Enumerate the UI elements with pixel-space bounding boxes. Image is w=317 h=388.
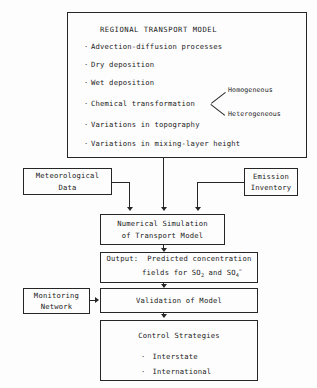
diagram-canvas: REGIONAL TRANSPORT MODEL ·Advection-diff… bbox=[0, 0, 317, 388]
model-bullet-5-label: Variations in mixing-layer height bbox=[91, 139, 240, 148]
output-prefix-label: Output: bbox=[107, 254, 139, 263]
model-bullet-0: ·Advection-diffusion processes bbox=[84, 42, 222, 51]
branch-label-heterogeneous: Heterogeneous bbox=[228, 110, 281, 118]
species-so4: SO4= bbox=[227, 268, 242, 277]
control-bullet-0: · Interstate bbox=[141, 352, 198, 361]
bullet-marker: · bbox=[84, 79, 91, 87]
output-fields-label: fields for bbox=[142, 268, 187, 277]
arrow-emission-to-simulation bbox=[195, 207, 201, 211]
model-bullet-4: ·Variations in topography bbox=[84, 120, 200, 129]
connector-meteorological-horizontal bbox=[112, 182, 130, 183]
arrow-meteorological-to-simulation bbox=[127, 207, 133, 211]
bullet-marker: · bbox=[84, 140, 91, 148]
arrow-validation-to-control bbox=[161, 314, 167, 318]
meteorological-data-box: Meteorological Data bbox=[23, 168, 112, 195]
numerical-simulation-box: Numerical Simulation of Transport Model bbox=[100, 214, 225, 245]
bullet-marker: · bbox=[84, 61, 91, 69]
model-bullet-2: ·Wet deposition bbox=[84, 78, 154, 87]
model-bullet-2-label: Wet deposition bbox=[91, 78, 154, 87]
bullet-marker: · bbox=[141, 368, 148, 376]
emission-line-2: Inventory bbox=[251, 182, 292, 194]
model-bullet-0-label: Advection-diffusion processes bbox=[91, 42, 222, 51]
model-bullet-1: ·Dry deposition bbox=[84, 60, 154, 69]
model-bullet-1-label: Dry deposition bbox=[91, 60, 154, 69]
bullet-marker: · bbox=[84, 100, 91, 108]
species-so2-subscript: 2 bbox=[201, 272, 204, 278]
model-bullet-4-label: Variations in topography bbox=[91, 120, 200, 129]
meteorological-line-1: Meteorological bbox=[36, 170, 99, 182]
species-so4-subscript: 4 bbox=[236, 272, 239, 278]
branch-label-homogeneous: Homogeneous bbox=[228, 86, 273, 94]
control-bullet-1-label: International bbox=[153, 367, 212, 376]
species-so4-superscript: = bbox=[239, 267, 242, 273]
model-box-heading: REGIONAL TRANSPORT MODEL bbox=[0, 25, 317, 34]
monitoring-line-2: Network bbox=[41, 301, 73, 313]
model-bullet-5: ·Variations in mixing-layer height bbox=[84, 139, 240, 148]
connector-emission-horizontal bbox=[197, 182, 244, 183]
simulation-line-1: Numerical Simulation bbox=[117, 218, 208, 230]
species-so2: SO2 bbox=[192, 268, 204, 277]
connector-emission-vertical bbox=[197, 182, 198, 208]
model-bullet-3: ·Chemical transformation bbox=[84, 99, 195, 108]
meteorological-line-2: Data bbox=[58, 182, 76, 194]
model-bullet-3-label: Chemical transformation bbox=[91, 99, 195, 108]
output-line-2: fields for SO2 and SO4= bbox=[116, 265, 242, 282]
species-so2-base: SO bbox=[192, 268, 201, 277]
emission-line-1: Emission bbox=[253, 171, 289, 183]
output-line-1: Output: Predicted concentration bbox=[107, 253, 252, 265]
species-so4-base: SO bbox=[227, 268, 236, 277]
validation-of-model-box: Validation of Model bbox=[100, 288, 258, 313]
arrow-model-to-simulation bbox=[161, 207, 167, 211]
connector-model-to-simulation bbox=[163, 158, 164, 208]
connector-meteorological-vertical bbox=[129, 182, 130, 208]
output-conjunction-label: and bbox=[209, 268, 223, 277]
arrow-monitoring-to-validation bbox=[95, 297, 99, 303]
output-rest-label: Predicted concentration bbox=[147, 254, 251, 263]
bullet-marker: · bbox=[84, 43, 91, 51]
control-heading: Control Strategies bbox=[100, 330, 258, 342]
validation-label: Validation of Model bbox=[136, 295, 222, 307]
control-bullet-0-label: Interstate bbox=[153, 352, 198, 361]
simulation-line-2: of Transport Model bbox=[122, 230, 204, 242]
monitoring-network-box: Monitoring Network bbox=[23, 288, 90, 314]
output-box: Output: Predicted concentration fields f… bbox=[100, 252, 258, 283]
bullet-marker: · bbox=[141, 353, 148, 361]
bullet-marker: · bbox=[84, 121, 91, 129]
emission-inventory-box: Emission Inventory bbox=[244, 168, 298, 196]
control-bullet-1: · International bbox=[141, 367, 211, 376]
monitoring-line-1: Monitoring bbox=[34, 290, 79, 302]
